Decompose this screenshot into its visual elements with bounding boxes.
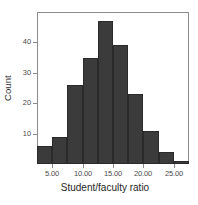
x-axis-tick-label: 20.00 [129,169,157,178]
x-axis-tick-mark [143,164,144,168]
x-axis-tick-label: 5.00 [38,169,66,178]
x-axis-tick-label: 15.00 [99,169,127,178]
x-axis-tick-mark [83,164,84,168]
x-axis-tick-mark [113,164,114,168]
x-axis-tick-mark [174,164,175,168]
histogram-chart: 10203040 Count 5.0010.0015.0020.0025.00 … [0,0,198,205]
x-axis: 5.0010.0015.0020.0025.00 [0,0,198,205]
x-axis-tick-label: 25.00 [160,169,188,178]
x-axis-tick-mark [52,164,53,168]
x-axis-title: Student/faculty ratio [20,182,190,193]
x-axis-tick-label: 10.00 [69,169,97,178]
